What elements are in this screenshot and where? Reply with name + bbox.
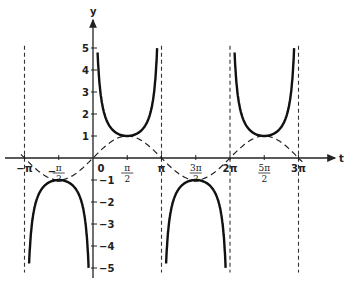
svg-text:2: 2	[56, 174, 62, 184]
x-tick-label: π	[56, 163, 62, 173]
x-tick-label: 3π	[291, 163, 306, 174]
cosecant-branch	[166, 180, 226, 268]
y-tick-label: 1	[82, 131, 89, 142]
cosecant-branch	[98, 48, 158, 136]
svg-text:2: 2	[124, 174, 130, 184]
y-tick-label: 3	[82, 87, 89, 98]
svg-text:2: 2	[193, 174, 199, 184]
x-tick-label: 2π	[223, 163, 238, 174]
y-tick-label: 2	[82, 109, 89, 120]
x-tick-label: 3π	[190, 163, 202, 173]
t-axis-label: t	[339, 153, 344, 164]
x-tick-label: 5π	[258, 163, 270, 173]
y-tick-label: 5	[82, 43, 89, 54]
x-tick-label: −π	[16, 163, 32, 174]
y-tick-label: −1	[99, 175, 114, 186]
x-tick-label: 0	[98, 163, 105, 174]
y-tick-label: −5	[99, 263, 114, 274]
svg-text:2: 2	[261, 174, 267, 184]
y-axis-label: y	[90, 6, 97, 17]
cosecant-branch	[29, 180, 89, 268]
cosecant-branch	[235, 48, 295, 136]
y-tick-label: −2	[99, 197, 114, 208]
cosecant-chart: t y 54321−1−2−3−4−5−π−π20π2π3π22π5π23π	[0, 0, 355, 288]
x-tick-label: π	[124, 163, 130, 173]
y-tick-label: −3	[99, 219, 114, 230]
y-tick-label: −4	[99, 241, 114, 252]
x-tick-label: π	[158, 163, 166, 174]
y-tick-label: 4	[82, 65, 89, 76]
